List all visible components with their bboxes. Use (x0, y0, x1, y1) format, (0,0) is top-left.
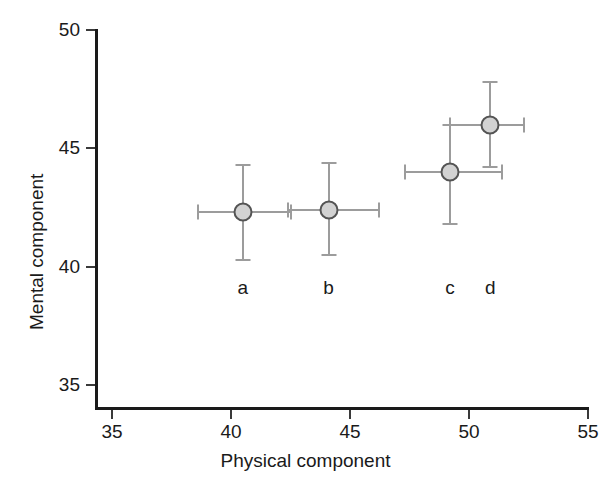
x-axis-title: Physical component (0, 450, 611, 472)
error-bar-cap (321, 162, 336, 164)
error-bar-cap (483, 81, 498, 83)
error-bar-cap (321, 254, 336, 256)
x-tick (349, 410, 351, 419)
scatter-plot-figure: 35404550 3540455055 abcd Physical compon… (0, 0, 611, 493)
x-tick-label: 40 (220, 421, 241, 443)
y-axis-title: Mental component (26, 174, 48, 330)
data-point-marker[interactable] (481, 115, 500, 134)
x-tick-label: 50 (458, 421, 479, 443)
x-tick-label: 35 (101, 421, 122, 443)
y-tick (86, 147, 95, 149)
y-tick (86, 266, 95, 268)
error-bar-cap (235, 259, 250, 261)
error-bar-cap (197, 205, 199, 220)
data-point-label: c (445, 277, 455, 299)
x-axis-spine (95, 407, 589, 410)
error-bar-cap (523, 117, 525, 132)
error-bar-cap (449, 117, 451, 132)
y-tick (86, 29, 95, 31)
error-bar-cap (378, 202, 380, 217)
error-bar-cap (501, 165, 503, 180)
x-tick-label: 55 (577, 421, 598, 443)
y-axis-spine (95, 29, 98, 410)
x-tick (468, 410, 470, 419)
x-tick (587, 410, 589, 419)
y-tick (86, 384, 95, 386)
y-tick-label: 35 (0, 374, 80, 396)
error-bar-cap (290, 205, 292, 220)
data-point-label: a (238, 277, 249, 299)
data-point-label: b (323, 277, 334, 299)
x-tick (230, 410, 232, 419)
data-point-marker[interactable] (319, 200, 338, 219)
error-bar-cap (287, 202, 289, 217)
error-bar-cap (483, 166, 498, 168)
data-point-marker[interactable] (233, 203, 252, 222)
x-tick-label: 45 (339, 421, 360, 443)
data-point-label: d (485, 277, 496, 299)
data-point-marker[interactable] (440, 163, 459, 182)
error-bar-cap (235, 164, 250, 166)
y-tick-label: 45 (0, 137, 80, 159)
error-bar-cap (442, 223, 457, 225)
x-tick (111, 410, 113, 419)
error-bar-cap (404, 165, 406, 180)
y-tick-label: 50 (0, 19, 80, 41)
